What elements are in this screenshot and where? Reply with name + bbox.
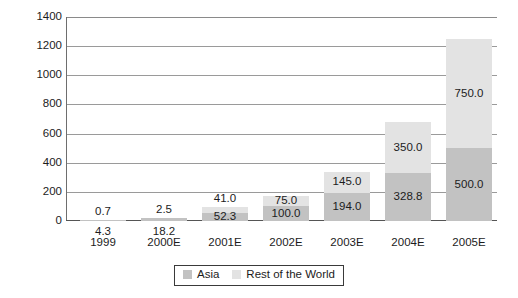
chart-legend: Asia Rest of the World [174, 265, 344, 286]
bar-value-label: 350.0 [385, 142, 431, 154]
y-axis-tick-label: 1000 [4, 70, 62, 82]
x-axis-tick-label: 2005E [434, 237, 504, 249]
legend-swatch-icon [183, 270, 192, 279]
bar-segment-asia[interactable]: 194.0 [324, 193, 370, 221]
bar-value-label: 0.7 [80, 206, 126, 218]
bar-group[interactable]: 350.0 328.8 [385, 122, 431, 221]
bar-group[interactable]: 750.0 500.0 [446, 39, 492, 221]
x-axis-tick-label: 2004E [373, 237, 443, 249]
legend-item-rest-of-the-world[interactable]: Rest of the World [232, 269, 335, 281]
stacked-bar-chart: 1400 1200 1000 800 600 400 200 0 0.7 4.3 [0, 0, 518, 298]
x-axis-tick-label: 1999 [68, 237, 138, 249]
legend-label: Asia [197, 269, 219, 281]
x-axis-tick-label: 2003E [312, 237, 382, 249]
plot-area: 0.7 4.3 2.5 18.2 41.0 [66, 17, 497, 221]
bar-value-label: 328.8 [385, 191, 431, 203]
y-axis-tick-label: 0 [4, 215, 62, 227]
bar-segment-rest-of-the-world[interactable]: 350.0 [385, 122, 431, 173]
bar-group[interactable]: 145.0 194.0 [324, 172, 370, 221]
bar-value-label: 500.0 [446, 179, 492, 191]
legend-swatch-icon [232, 270, 241, 279]
y-axis-tick-label: 1400 [4, 11, 62, 23]
bar-segment-asia[interactable]: 100.0 [263, 206, 309, 221]
legend-label: Rest of the World [246, 269, 335, 281]
bar-segment-asia[interactable]: 500.0 [446, 148, 492, 221]
x-axis-tick-labels: 1999 2000E 2001E 2002E 2003E 2004E 2005E [66, 221, 497, 255]
bar-segment-rest-of-the-world[interactable]: 145.0 [324, 172, 370, 193]
bar-segment-rest-of-the-world[interactable]: 750.0 [446, 39, 492, 148]
bar-value-label: 145.0 [324, 176, 370, 188]
y-axis-tick-labels: 1400 1200 1000 800 600 400 200 0 [0, 17, 62, 221]
y-axis-tick-label: 1200 [4, 40, 62, 52]
x-axis-tick-label: 2000E [129, 237, 199, 249]
y-axis-tick-label: 600 [4, 128, 62, 140]
bar-segment-asia[interactable]: 52.3 [202, 213, 248, 221]
x-axis-tick-label: 2001E [190, 237, 260, 249]
y-axis-tick-label: 800 [4, 99, 62, 111]
bar-value-label: 75.0 [263, 195, 309, 207]
bar-segment-asia[interactable]: 328.8 [385, 173, 431, 221]
bar-value-label: 194.0 [324, 201, 370, 213]
y-axis-tick-label: 400 [4, 157, 62, 169]
bar-group[interactable]: 75.0 100.0 [263, 196, 309, 221]
x-axis-tick-label: 2002E [251, 237, 321, 249]
bar-value-label: 100.0 [263, 208, 309, 220]
bar-value-label: 2.5 [141, 204, 187, 216]
bar-value-label: 41.0 [202, 193, 248, 205]
y-axis-tick-label: 200 [4, 186, 62, 198]
bar-value-label: 750.0 [446, 88, 492, 100]
bar-segment-rest-of-the-world[interactable]: 75.0 [263, 196, 309, 207]
bars-layer: 0.7 4.3 2.5 18.2 41.0 [66, 17, 497, 221]
bar-group[interactable]: 41.0 52.3 [202, 207, 248, 221]
legend-item-asia[interactable]: Asia [183, 269, 219, 281]
